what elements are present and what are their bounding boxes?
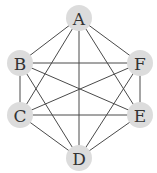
node-f: F (127, 50, 153, 76)
node-b: B (7, 50, 33, 76)
node-c-label: C (13, 106, 26, 126)
graph-svg: A B F C E D (0, 0, 157, 173)
node-a-label: A (72, 9, 86, 29)
node-a: A (66, 5, 92, 31)
node-b-label: B (14, 54, 27, 74)
edges-layer (20, 18, 140, 158)
node-c: C (7, 102, 33, 128)
node-d: D (66, 145, 92, 171)
node-f-label: F (134, 54, 146, 74)
node-e: E (127, 102, 153, 128)
nodes-layer: A B F C E D (7, 5, 153, 171)
node-d-label: D (72, 149, 86, 169)
node-e-label: E (134, 106, 146, 126)
graph-diagram: A B F C E D (0, 0, 157, 173)
